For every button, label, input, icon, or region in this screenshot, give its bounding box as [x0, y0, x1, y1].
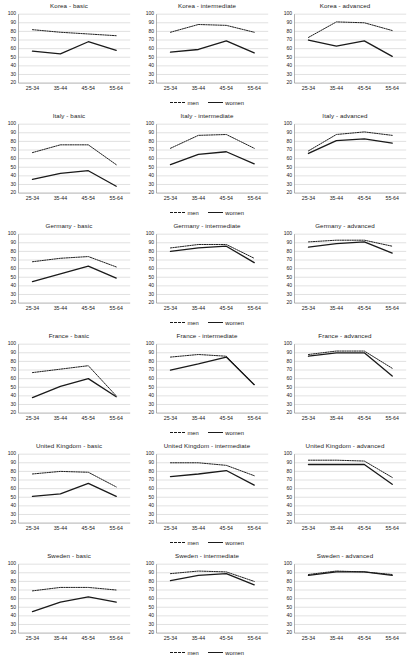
- x-tick-label: 25-34: [164, 85, 177, 91]
- y-gridlines: 1009080706050403020: [284, 120, 407, 195]
- y-tick-label: 100: [8, 340, 17, 346]
- panel-title: Sweden - advanced: [278, 552, 412, 560]
- y-tick-label: 60: [148, 375, 154, 381]
- y-tick-label: 90: [286, 129, 292, 135]
- y-tick-label: 80: [10, 138, 16, 144]
- y-tick-label: 90: [148, 459, 154, 465]
- x-tick-label: 45-54: [220, 85, 233, 91]
- series-line-men: [32, 145, 116, 165]
- x-tick-label: 25-34: [302, 635, 315, 641]
- legend-swatch-women: [208, 322, 223, 323]
- y-tick-label: 100: [8, 10, 17, 16]
- panel-title: Korea - advanced: [278, 2, 412, 10]
- legend: menwomen: [140, 537, 274, 548]
- y-tick-label: 30: [148, 401, 154, 407]
- y-tick-label: 90: [286, 569, 292, 575]
- y-tick-label: 90: [148, 19, 154, 25]
- series-line-women: [32, 483, 116, 496]
- x-tick-labels: 25-3435-4445-5455-64: [302, 415, 399, 421]
- legend-item-men: men: [170, 320, 199, 326]
- y-tick-label: 20: [148, 629, 154, 635]
- y-tick-label: 100: [8, 560, 17, 566]
- plot-area: 100908070605040302025-3435-4445-5455-64: [2, 340, 136, 426]
- y-tick-label: 20: [10, 519, 16, 525]
- x-tick-label: 35-44: [192, 195, 205, 201]
- x-tick-labels: 25-3435-4445-5455-64: [26, 415, 123, 421]
- legend-label-men: men: [188, 540, 199, 546]
- legend-label-women: women: [225, 650, 244, 656]
- x-tick-label: 45-54: [82, 635, 95, 641]
- x-tick-label: 55-64: [386, 635, 399, 641]
- y-gridlines: 1009080706050403020: [146, 230, 269, 305]
- y-tick-label: 40: [286, 172, 292, 178]
- legend-item-women: women: [208, 210, 244, 216]
- y-tick-label: 70: [148, 146, 154, 152]
- y-tick-label: 70: [10, 586, 16, 592]
- x-tick-label: 45-54: [358, 635, 371, 641]
- x-tick-labels: 25-3435-4445-5455-64: [164, 195, 261, 201]
- legend: menwomen: [140, 97, 274, 108]
- x-tick-label: 35-44: [54, 85, 67, 91]
- x-tick-label: 35-44: [192, 525, 205, 531]
- legend-label-men: men: [188, 100, 199, 106]
- y-tick-label: 20: [286, 519, 292, 525]
- legend: menwomen: [140, 647, 274, 658]
- series-line-women: [308, 353, 392, 376]
- y-tick-label: 80: [148, 248, 154, 254]
- x-tick-labels: 25-3435-4445-5455-64: [164, 635, 261, 641]
- y-tick-label: 100: [8, 450, 17, 456]
- y-tick-label: 40: [148, 172, 154, 178]
- y-tick-label: 40: [10, 502, 16, 508]
- y-tick-label: 100: [146, 560, 155, 566]
- y-tick-label: 70: [10, 36, 16, 42]
- legend-label-women: women: [225, 430, 244, 436]
- series-line-men: [170, 463, 254, 476]
- legend-label-men: men: [188, 430, 199, 436]
- series-line-women: [32, 379, 116, 398]
- x-tick-labels: 25-3435-4445-5455-64: [26, 305, 123, 311]
- x-tick-label: 55-64: [248, 195, 261, 201]
- legend-swatch-men: [170, 432, 185, 433]
- y-tick-label: 70: [10, 366, 16, 372]
- panel-sweden-intermediate: Sweden - intermediate1009080706050403020…: [138, 550, 276, 660]
- y-tick-label: 100: [146, 10, 155, 16]
- legend: menwomen: [140, 317, 274, 328]
- y-tick-label: 40: [286, 62, 292, 68]
- x-tick-labels: 25-3435-4445-5455-64: [26, 85, 123, 91]
- y-tick-label: 30: [10, 401, 16, 407]
- legend-label-women: women: [225, 210, 244, 216]
- y-gridlines: 1009080706050403020: [8, 230, 131, 305]
- y-tick-label: 80: [10, 578, 16, 584]
- x-tick-label: 25-34: [26, 415, 39, 421]
- y-tick-label: 80: [10, 28, 16, 34]
- x-tick-label: 55-64: [248, 305, 261, 311]
- y-tick-label: 100: [146, 450, 155, 456]
- x-tick-label: 35-44: [54, 305, 67, 311]
- y-tick-label: 70: [286, 36, 292, 42]
- x-tick-label: 55-64: [248, 415, 261, 421]
- y-tick-label: 90: [148, 569, 154, 575]
- x-tick-label: 25-34: [164, 525, 177, 531]
- panel-title: Germany - basic: [2, 222, 136, 230]
- y-tick-label: 40: [286, 392, 292, 398]
- y-tick-label: 90: [10, 459, 16, 465]
- plot-area: 100908070605040302025-3435-4445-5455-64: [140, 560, 274, 646]
- panel-title: Sweden - intermediate: [140, 552, 274, 560]
- x-tick-label: 35-44: [330, 635, 343, 641]
- panel-germany-basic: Germany - basic100908070605040302025-343…: [0, 220, 138, 330]
- y-tick-label: 40: [148, 282, 154, 288]
- panel-italy-intermediate: Italy - intermediate10090807060504030202…: [138, 110, 276, 220]
- y-tick-label: 20: [148, 519, 154, 525]
- x-tick-label: 25-34: [164, 415, 177, 421]
- x-tick-label: 45-54: [220, 415, 233, 421]
- y-tick-label: 60: [286, 595, 292, 601]
- y-tick-label: 50: [10, 274, 16, 280]
- x-tick-label: 35-44: [330, 195, 343, 201]
- panel-title: Germany - intermediate: [140, 222, 274, 230]
- x-tick-label: 45-54: [220, 305, 233, 311]
- y-tick-label: 40: [148, 502, 154, 508]
- panel-sweden-basic: Sweden - basic100908070605040302025-3435…: [0, 550, 138, 660]
- y-tick-label: 40: [10, 172, 16, 178]
- y-tick-label: 90: [148, 129, 154, 135]
- legend-item-men: men: [170, 430, 199, 436]
